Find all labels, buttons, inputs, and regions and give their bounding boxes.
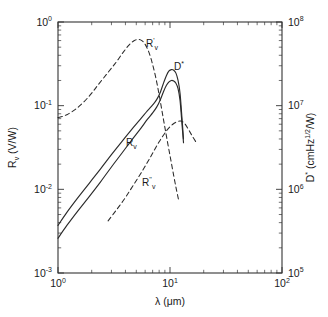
label-rv-prime: R'v — [146, 37, 159, 51]
y-right-axis-title: D* (cmHz1/2/W) — [304, 113, 316, 183]
label-rv-doubleprime: R''v — [142, 176, 156, 190]
y-right-tick-label: 105 — [288, 266, 304, 278]
y-left-tick-label: 10-1 — [34, 99, 52, 111]
x-axis-tick-label: 101 — [162, 277, 178, 289]
x-axis-tick-label: 100 — [50, 277, 66, 289]
label-rv: Rv — [126, 137, 137, 150]
y-right-tick-label: 107 — [288, 99, 304, 111]
x-axis-tick-label: 102 — [274, 277, 290, 289]
log-log-plot-svg: 10010110210010-110-210-3108107106105λ (μ… — [0, 0, 328, 317]
y-right-tick-label: 106 — [288, 183, 304, 195]
x-axis-title: λ (μm) — [155, 295, 185, 307]
y-left-tick-label: 10-2 — [34, 183, 52, 195]
label-dstar: D* — [174, 60, 184, 72]
y-left-tick-label: 100 — [36, 15, 52, 27]
y-left-axis-title: Rv (V/W) — [6, 127, 20, 168]
plot-frame — [58, 22, 282, 273]
series-rv-curve — [58, 39, 179, 201]
series-rv-curve — [58, 80, 184, 238]
y-right-tick-label: 108 — [288, 15, 304, 27]
chart-figure: 10010110210010-110-210-3108107106105λ (μ… — [0, 0, 328, 317]
series-d-curve — [58, 70, 184, 226]
